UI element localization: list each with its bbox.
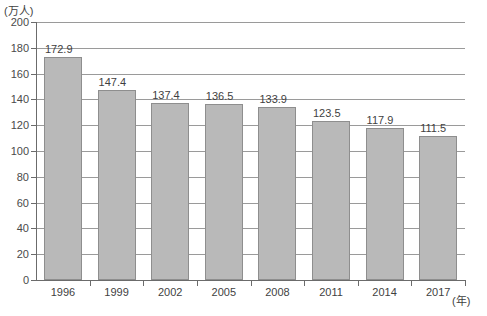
gridline: [36, 74, 465, 75]
x-axis-tick: [143, 281, 144, 286]
y-axis-tick: [31, 203, 36, 204]
y-axis-tick: [31, 48, 36, 49]
bar: [366, 128, 404, 280]
bar-value-label: 133.9: [259, 93, 287, 105]
x-axis-tick: [197, 281, 198, 286]
x-axis-tick: [411, 281, 412, 286]
y-axis-tick-label-text: 200: [11, 16, 29, 28]
x-axis-category-label: 1996: [38, 286, 88, 298]
y-axis-tick: [31, 74, 36, 75]
y-axis-tick-label-text: 120: [11, 119, 29, 131]
y-axis-tick-label-text: 180: [11, 42, 29, 54]
x-axis-category-label: 1999: [92, 286, 142, 298]
bar-chart: (万人) (年) 020406080100120140160180200172.…: [0, 0, 487, 316]
bar: [419, 136, 457, 280]
x-axis-category-label: 2005: [199, 286, 249, 298]
bar-value-label: 111.5: [420, 122, 446, 134]
x-axis-category-label: 2008: [252, 286, 302, 298]
bar-value-label: 117.9: [367, 114, 394, 126]
x-axis-category-label: 2014: [360, 286, 410, 298]
bar-value-label: 136.5: [206, 90, 234, 102]
bar: [205, 104, 243, 280]
gridline: [36, 22, 465, 23]
y-axis-tick-label-text: 20: [17, 248, 29, 260]
bar: [312, 121, 350, 280]
y-axis-tick: [31, 228, 36, 229]
x-axis-tick: [358, 281, 359, 286]
y-axis-tick-label-text: 40: [17, 222, 29, 234]
y-axis-tick: [31, 99, 36, 100]
gridline: [36, 48, 465, 49]
bar-value-label: 123.5: [313, 107, 341, 119]
x-axis-tick: [304, 281, 305, 286]
y-axis-tick: [31, 125, 36, 126]
y-axis-tick: [31, 177, 36, 178]
y-axis-tick-label-text: 60: [17, 197, 29, 209]
y-axis-tick: [31, 280, 36, 281]
x-axis-category-label: 2002: [145, 286, 195, 298]
y-axis-tick: [31, 22, 36, 23]
y-axis-tick: [31, 151, 36, 152]
y-axis-tick: [31, 254, 36, 255]
bar: [98, 90, 136, 280]
plot-area: [36, 22, 465, 280]
y-axis-tick-label-text: 140: [11, 93, 29, 105]
y-axis-line: [36, 22, 37, 281]
bar-value-label: 147.4: [99, 76, 127, 88]
bar: [44, 57, 82, 280]
x-axis-tick: [465, 281, 466, 286]
y-axis-tick-label-text: 0: [23, 274, 29, 286]
bar: [258, 107, 296, 280]
x-axis-tick: [90, 281, 91, 286]
y-axis-tick-label-text: 100: [11, 145, 29, 157]
x-axis-category-label: 2011: [306, 286, 356, 298]
y-axis-tick-label-text: 80: [17, 171, 29, 183]
bar-value-label: 172.9: [45, 43, 73, 55]
bar: [151, 103, 189, 280]
bar-value-label: 137.4: [152, 89, 180, 101]
y-axis-tick-label-text: 160: [11, 68, 29, 80]
x-axis-category-label: 2017: [413, 286, 463, 298]
x-axis-tick: [251, 281, 252, 286]
